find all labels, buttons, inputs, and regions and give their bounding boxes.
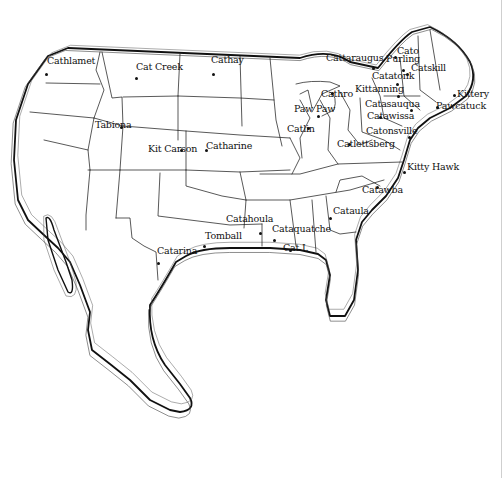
place-label: Catonsville xyxy=(366,126,417,136)
place-label: Cathay xyxy=(211,55,244,65)
place-label: Catasauqua xyxy=(365,99,420,109)
place-label: Cattaraugus xyxy=(326,53,383,63)
place-label: Catahoula xyxy=(226,214,273,224)
place-label: Cathlamet xyxy=(47,56,95,66)
place-label: Kit Carson xyxy=(148,144,197,154)
place-marker-dot xyxy=(273,239,276,242)
place-marker-dot xyxy=(408,136,411,139)
place-label: Catarina xyxy=(157,246,197,256)
place-label: Cat I. xyxy=(283,243,308,253)
place-label: Catharine xyxy=(206,141,252,151)
place-label: Tomball xyxy=(205,231,242,241)
place-label: Paw Paw xyxy=(294,104,335,114)
place-label: Cathro xyxy=(321,89,353,99)
place-label: Tabiona xyxy=(95,120,131,130)
place-label: Catskill xyxy=(411,63,446,73)
place-label: Kittanning xyxy=(355,84,404,94)
place-marker-dot xyxy=(212,73,215,76)
place-label: Cataula xyxy=(333,206,369,216)
place-marker-dot xyxy=(259,232,262,235)
place-label: Catlin xyxy=(287,124,315,134)
place-marker-dot xyxy=(135,77,138,80)
place-marker-dot xyxy=(317,115,320,118)
place-marker-dot xyxy=(403,171,406,174)
place-label: Catawba xyxy=(362,185,403,195)
page-edge xyxy=(501,0,502,478)
place-label: Cataquatche xyxy=(272,224,331,234)
place-label: Kitty Hawk xyxy=(407,162,459,172)
place-marker-dot xyxy=(157,262,160,265)
place-marker-dot xyxy=(45,73,48,76)
place-marker-dot xyxy=(453,94,456,97)
place-label: Catlettsberg xyxy=(337,139,395,149)
place-marker-dot xyxy=(203,245,206,248)
place-marker-dot xyxy=(329,217,332,220)
place-label: Cat Creek xyxy=(136,62,183,72)
place-label: Pawcatuck xyxy=(436,101,486,111)
place-label: Catatonk xyxy=(372,71,414,81)
place-label: Kittery xyxy=(457,89,489,99)
place-label: Catawissa xyxy=(367,111,414,121)
